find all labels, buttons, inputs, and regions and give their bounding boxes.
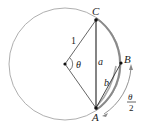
theta-angle-arc: [70, 58, 73, 70]
label-theta: θ: [76, 59, 81, 70]
label-radius: 1: [71, 35, 76, 46]
label-half-theta-den: 2: [129, 103, 134, 113]
point-o: [63, 62, 66, 65]
label-half-theta-num: θ: [128, 92, 133, 102]
label-b-chord: b: [104, 77, 109, 88]
radius-oc: [65, 20, 96, 64]
label-a-chord: a: [98, 56, 103, 67]
circle-diagram: C A B 1 θ a b θ 2: [0, 0, 142, 123]
label-b: B: [124, 53, 131, 65]
point-b: [119, 61, 122, 64]
radius-oa: [65, 64, 96, 108]
label-a: A: [91, 111, 99, 123]
point-c: [94, 18, 98, 22]
point-a: [94, 106, 98, 110]
label-c: C: [92, 5, 100, 17]
